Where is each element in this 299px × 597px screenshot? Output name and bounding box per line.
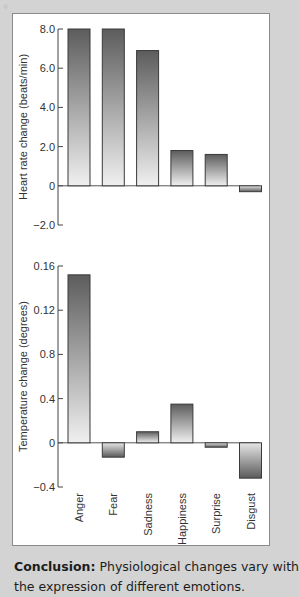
y-tick-label: −0.4 — [33, 481, 55, 493]
category-label-anger: Anger — [73, 493, 85, 523]
bar-fear — [102, 443, 124, 457]
category-label-happiness: Happiness — [176, 493, 188, 545]
corner-mark-icon: ✧ — [2, 2, 12, 12]
bar-surprise — [205, 154, 227, 185]
chart-canvas: 8.06.04.02.00−2.0Heart rate change (beat… — [13, 14, 271, 547]
y-tick-label: 8.0 — [40, 23, 55, 35]
y-axis-title: Heart rate change (beats/min) — [17, 54, 29, 200]
y-tick-label: 0.8 — [40, 348, 55, 360]
category-label-sadness: Sadness — [142, 493, 154, 536]
y-tick-label: 2.0 — [40, 141, 55, 153]
y-tick-label: 0 — [49, 180, 55, 192]
y-tick-label: 4.0 — [40, 101, 55, 113]
category-label-surprise: Surprise — [210, 493, 222, 534]
y-tick-label: 6.0 — [40, 62, 55, 74]
y-tick-label: −2.0 — [33, 219, 55, 231]
conclusion-text: Conclusion: Physiological changes vary w… — [14, 557, 279, 597]
category-label-disgust: Disgust — [245, 493, 257, 530]
conclusion-body-line2: the expression of different emotions. — [14, 579, 245, 594]
bar-sadness — [137, 432, 159, 443]
y-tick-label: 0.12 — [34, 304, 55, 316]
conclusion-body: Physiological changes vary with — [95, 559, 299, 574]
figure-panel: 8.06.04.02.00−2.0Heart rate change (beat… — [12, 13, 270, 546]
conclusion-label: Conclusion: — [14, 559, 95, 574]
y-tick-label: 0.16 — [34, 260, 55, 272]
bar-fear — [102, 29, 124, 186]
bar-happiness — [171, 404, 193, 443]
category-label-fear: Fear — [107, 493, 119, 516]
bar-surprise — [205, 443, 227, 447]
bar-sadness — [137, 51, 159, 186]
y-tick-label: 0 — [49, 437, 55, 449]
y-axis-title: Temperature change (degrees) — [17, 301, 29, 452]
bar-anger — [68, 29, 90, 186]
y-tick-label: 0.4 — [40, 393, 55, 405]
bar-anger — [68, 275, 90, 443]
bar-happiness — [171, 151, 193, 186]
bar-disgust — [240, 443, 262, 478]
bar-disgust — [240, 186, 262, 192]
